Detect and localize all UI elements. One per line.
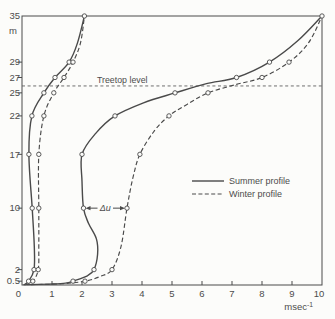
summer-profile-strong-wind-marker: [320, 14, 324, 18]
y-tick-label: 2: [15, 264, 20, 275]
winter-profile-light-wind-marker: [37, 206, 41, 210]
winter-profile-light-wind-marker: [42, 114, 46, 118]
x-tick-label: 2: [79, 288, 84, 299]
winter-profile-strong-wind-marker: [206, 91, 210, 95]
winter-profile-light-wind-marker: [62, 75, 66, 79]
summer-profile-light-wind-marker: [53, 75, 57, 79]
y-axis: 3529272522171020.5m0: [7, 10, 22, 299]
winter-profile-light-wind-marker: [52, 91, 56, 95]
y-tick-label: 35: [9, 10, 20, 21]
wind-profile-chart: 3529272522171020.5m012345678910msec-1Tre…: [0, 0, 335, 319]
summer-profile-strong-wind-marker: [92, 267, 96, 271]
y-tick-label: 17: [9, 149, 20, 160]
y-tick-label: 0.5: [7, 275, 20, 286]
summer-profile-strong-wind-marker: [80, 152, 84, 156]
summer-profile-strong-wind-marker: [113, 114, 117, 118]
summer-profile-light-wind-marker: [30, 114, 34, 118]
x-tick-label: 8: [259, 288, 264, 299]
delta-u-annotation: Δu: [86, 203, 126, 213]
y-tick-label: 27: [9, 72, 20, 83]
y-tick-label: 29: [9, 56, 20, 67]
summer-profile-light-wind-marker: [26, 279, 30, 283]
winter-profile-strong-wind-marker: [83, 279, 87, 283]
winter-profile-light-wind-marker: [71, 60, 75, 64]
x-tick-label: 5: [169, 288, 174, 299]
winter-profile-strong-wind-marker: [110, 267, 114, 271]
wind-profile-figure: 3529272522171020.5m012345678910msec-1Tre…: [0, 0, 335, 319]
x-tick-label: 10: [314, 288, 325, 299]
summer-profile-strong-wind-marker: [71, 279, 75, 283]
origin-label: 0: [16, 288, 21, 299]
winter-profile-strong-wind-marker: [138, 152, 142, 156]
summer-profile-strong-wind-marker: [173, 91, 177, 95]
treetop-level-label: Treetop level: [97, 75, 148, 85]
summer-profile-strong-wind-marker: [267, 60, 271, 64]
x-axis-unit-exponent: -1: [307, 301, 313, 308]
x-axis-unit-label: msec-1: [284, 301, 313, 313]
x-tick-label: 7: [229, 288, 234, 299]
x-axis: 12345678910msec-1: [49, 281, 324, 312]
x-tick-label: 6: [199, 288, 204, 299]
delta-u-arrow-left-head: [86, 206, 91, 210]
summer-profile-light-wind-marker: [32, 267, 36, 271]
legend: Summer profileWinter profile: [192, 176, 290, 199]
delta-u-arrow-right-head: [120, 206, 125, 210]
summer-profile-light-wind-marker: [82, 14, 86, 18]
delta-u-label: Δu: [99, 203, 111, 213]
summer-profile-strong-wind-marker: [234, 75, 238, 79]
x-tick-label: 3: [109, 288, 114, 299]
summer-profile-light-wind-marker: [30, 206, 34, 210]
y-tick-label: 25: [9, 87, 20, 98]
legend-label: Winter profile: [229, 189, 282, 199]
winter-profile-strong-wind-marker: [167, 114, 171, 118]
winter-profile-strong-wind-marker: [125, 206, 129, 210]
y-axis-unit-label: m: [9, 25, 17, 36]
legend-label: Summer profile: [229, 176, 290, 186]
winter-profile-strong-wind-marker: [260, 75, 264, 79]
plot-frame: [22, 16, 322, 285]
summer-profile-light-wind-marker: [27, 152, 31, 156]
winter-profile-light-wind-marker: [36, 267, 40, 271]
x-tick-label: 9: [289, 288, 294, 299]
winter-profile-light-wind-marker: [37, 152, 41, 156]
summer-profile-light-wind-marker: [42, 91, 46, 95]
summer-profile-strong-wind-curve: [27, 16, 323, 285]
summer-profile-strong-wind-marker: [81, 206, 85, 210]
y-tick-label: 10: [9, 202, 20, 213]
y-tick-label: 22: [9, 110, 20, 121]
winter-profile-light-wind-marker: [31, 279, 35, 283]
winter-profile-strong-wind-marker: [287, 60, 291, 64]
x-tick-label: 1: [49, 288, 54, 299]
x-tick-label: 4: [139, 288, 144, 299]
